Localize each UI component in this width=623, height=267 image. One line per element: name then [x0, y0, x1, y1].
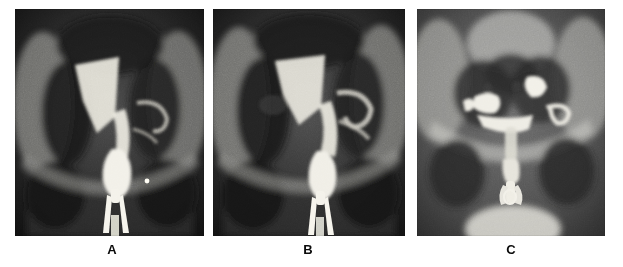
radiograph-image-c — [417, 9, 605, 236]
panel-label-c: C — [496, 243, 526, 257]
radiograph-panel-b — [213, 9, 405, 236]
radiograph-panel-c — [417, 9, 605, 236]
radiograph-image-b — [213, 9, 405, 236]
radiograph-panel-a — [15, 9, 204, 236]
figure-container: A — [0, 0, 623, 267]
panel-label-a: A — [97, 243, 127, 257]
radiograph-image-a — [15, 9, 204, 236]
panel-label-b: B — [293, 243, 323, 257]
